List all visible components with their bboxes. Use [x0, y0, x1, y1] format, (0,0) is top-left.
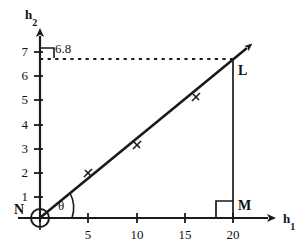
y-tick-label-5: 5	[14, 93, 28, 106]
y-tick-label-4: 4	[14, 118, 28, 131]
y-tick-label-3: 3	[14, 142, 28, 155]
y-tick-label-7: 7	[14, 45, 28, 58]
right-angle-marker-M	[216, 201, 233, 218]
x-tick-label-20: 20	[222, 228, 244, 241]
intercept-bracket	[40, 48, 54, 58]
y-axis-label: h2	[25, 8, 37, 25]
point-label-M: M	[238, 199, 251, 213]
x-axis-label: h1	[283, 212, 295, 229]
x-tick-label-10: 10	[126, 228, 148, 241]
y-tick-label-2: 2	[14, 166, 28, 179]
figure-container: h2 h1 7 6 5 4 3 2 1 5 10 15 20 6.8 N θ L…	[0, 0, 307, 249]
x-tick-label-5: 5	[77, 228, 99, 241]
y-axis-ticks	[34, 52, 43, 197]
point-label-N: N	[14, 203, 24, 217]
plot-canvas	[0, 0, 307, 249]
angle-arc-theta	[70, 193, 74, 218]
x-tick-label-15: 15	[174, 228, 196, 241]
point-label-L: L	[238, 64, 247, 78]
y-tick-label-6: 6	[14, 69, 28, 82]
angle-label-theta: θ	[58, 199, 64, 212]
intercept-value-label: 6.8	[55, 42, 71, 55]
regression-line	[41, 48, 247, 217]
